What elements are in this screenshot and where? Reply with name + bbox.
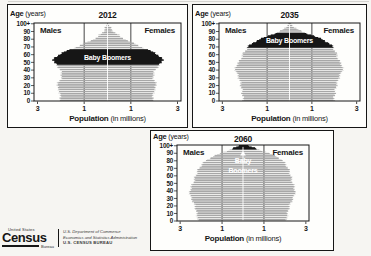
x-tick-label: 3 bbox=[176, 105, 180, 112]
age-axis-label: Age (years) bbox=[195, 9, 231, 18]
age-tick-label: 20 bbox=[166, 202, 173, 209]
age-tick-label: 90 bbox=[208, 28, 215, 35]
age-tick-label: 0 bbox=[27, 97, 31, 104]
age-tick-label: 50 bbox=[166, 180, 173, 187]
males-label: Males bbox=[225, 26, 247, 35]
males-label: Males bbox=[183, 148, 205, 157]
logo-wordmark: United States Census Bureau bbox=[2, 227, 54, 249]
age-tick-label: 50 bbox=[208, 59, 215, 66]
age-axis-label: Age (years) bbox=[153, 132, 189, 141]
panel-title: 2012 bbox=[98, 10, 117, 20]
age-tick-label: 60 bbox=[208, 51, 215, 58]
age-tick-label: 30 bbox=[23, 74, 30, 81]
age-tick-label: 30 bbox=[166, 195, 173, 202]
age-tick-label: 80 bbox=[166, 157, 173, 164]
agency-text: U.S. Department of Commerce Economics an… bbox=[63, 230, 137, 246]
logo-census: Census bbox=[2, 232, 54, 244]
population-axis-label: Population (in millions) bbox=[251, 114, 328, 123]
x-tick-label: 1 bbox=[82, 105, 86, 112]
census-pyramids-figure: Baby BoomersMalesFemales100+908070605040… bbox=[0, 0, 371, 256]
age-tick-label: 20 bbox=[23, 82, 30, 89]
baby-boomers-band bbox=[232, 145, 256, 150]
x-tick-label: 1 bbox=[129, 105, 133, 112]
logo-united-states: United States bbox=[8, 227, 60, 232]
x-tick-label: 1 bbox=[265, 105, 269, 112]
logo-bureau: Bureau bbox=[41, 244, 54, 249]
age-tick-label: 40 bbox=[166, 187, 173, 194]
males-label: Males bbox=[40, 26, 62, 35]
age-tick-label: 10 bbox=[208, 89, 215, 96]
population-axis-label: Population (in millions) bbox=[205, 234, 282, 243]
pyramid-chart-2035: Baby BoomersMalesFemales100+908070605040… bbox=[193, 5, 366, 127]
age-tick-label: 90 bbox=[23, 28, 30, 35]
agency-line-census: U.S. CENSUS BUREAU bbox=[63, 241, 137, 246]
top-rule bbox=[8, 1, 369, 2]
x-tick-label: 3 bbox=[355, 105, 359, 112]
age-tick-label: 60 bbox=[166, 172, 173, 179]
pyramid-panel-2035: Baby BoomersMalesFemales100+908070605040… bbox=[192, 4, 367, 128]
baby-boomers-annotation-line1: Baby bbox=[235, 157, 252, 165]
age-tick-label: 30 bbox=[208, 74, 215, 81]
age-tick-label: 10 bbox=[166, 210, 173, 217]
age-tick-label: 100+ bbox=[160, 142, 174, 149]
age-tick-label: 40 bbox=[23, 66, 30, 73]
age-tick-label: 40 bbox=[208, 66, 215, 73]
age-tick-label: 20 bbox=[208, 82, 215, 89]
age-tick-label: 80 bbox=[208, 35, 215, 42]
pyramid-panel-2012: Baby BoomersMalesFemales100+908070605040… bbox=[7, 4, 188, 128]
age-tick-label: 0 bbox=[170, 217, 174, 224]
age-tick-label: 70 bbox=[23, 43, 30, 50]
age-tick-label: 80 bbox=[23, 35, 30, 42]
age-tick-label: 100+ bbox=[17, 20, 31, 27]
x-tick-label: 3 bbox=[178, 225, 182, 232]
population-axis-label: Population (in millions) bbox=[69, 114, 146, 123]
x-tick-label: 3 bbox=[36, 105, 40, 112]
x-tick-label: 3 bbox=[221, 105, 225, 112]
females-label: Females bbox=[272, 148, 303, 157]
age-tick-label: 0 bbox=[212, 97, 216, 104]
age-tick-label: 60 bbox=[23, 51, 30, 58]
x-tick-label: 3 bbox=[304, 225, 308, 232]
age-tick-label: 70 bbox=[166, 165, 173, 172]
females-label: Females bbox=[144, 26, 175, 35]
x-tick-label: 1 bbox=[310, 105, 314, 112]
age-tick-label: 90 bbox=[166, 149, 173, 156]
baby-boomers-annotation-line2: Boomers bbox=[229, 167, 258, 174]
panel-title: 2035 bbox=[280, 10, 299, 20]
census-bureau-logo: United States Census Bureau U.S. Departm… bbox=[2, 227, 137, 249]
age-axis-label: Age (years) bbox=[10, 9, 46, 18]
age-tick-label: 100+ bbox=[202, 20, 216, 27]
logo-underline-bar bbox=[2, 245, 39, 247]
females-label: Females bbox=[323, 26, 354, 35]
pyramid-panel-2060: BabyBoomersMalesFemales100+9080706050403… bbox=[150, 130, 334, 251]
pyramid-chart-2060: BabyBoomersMalesFemales100+9080706050403… bbox=[151, 131, 333, 250]
age-tick-label: 10 bbox=[23, 89, 30, 96]
panel-title: 2060 bbox=[234, 134, 253, 144]
age-tick-label: 70 bbox=[208, 43, 215, 50]
age-tick-label: 50 bbox=[23, 59, 30, 66]
agency-line-commerce: U.S. Department of Commerce bbox=[63, 230, 137, 235]
x-tick-label: 1 bbox=[220, 225, 224, 232]
baby-boomers-band-label: Baby Boomers bbox=[84, 54, 131, 62]
pyramid-chart-2012: Baby BoomersMalesFemales100+908070605040… bbox=[8, 5, 187, 127]
baby-boomers-band-label: Baby Boomers bbox=[266, 37, 313, 45]
x-tick-label: 1 bbox=[262, 225, 266, 232]
